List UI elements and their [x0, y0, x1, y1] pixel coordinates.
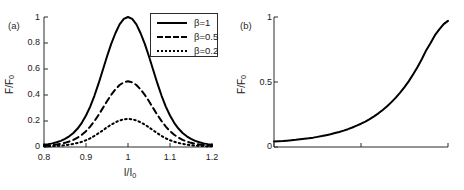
legend-line-dotted-icon [157, 44, 187, 56]
panel-b-axes [274, 17, 448, 147]
panel-b-plot [232, 0, 464, 190]
legend-label-beta-0p2: β=0.2 [194, 45, 218, 56]
figure-container: (a) 1 0.8 0.6 0.4 0.2 0 F/F0 0.8 0.9 1 1… [0, 0, 464, 190]
legend-item-beta-0p2: β=0.2 [151, 43, 217, 57]
legend-label-beta-1: β=1 [194, 17, 210, 28]
panel-b: (b) 1 0.5 0 F/F0 1 1.1 1.2 I/I0 [232, 0, 464, 190]
panel-a-legend: β=1 β=0.5 β=0.2 [150, 13, 218, 57]
panel-a: (a) 1 0.8 0.6 0.4 0.2 0 F/F0 0.8 0.9 1 1… [0, 0, 232, 190]
legend-item-beta-0p5: β=0.5 [151, 29, 217, 43]
legend-line-dashed-icon [157, 30, 187, 42]
legend-item-beta-1: β=1 [151, 15, 217, 29]
legend-label-beta-0p5: β=0.5 [194, 31, 218, 42]
legend-line-solid-icon [157, 16, 187, 28]
curve-exponential [274, 21, 448, 142]
panel-b-curves [274, 21, 448, 142]
